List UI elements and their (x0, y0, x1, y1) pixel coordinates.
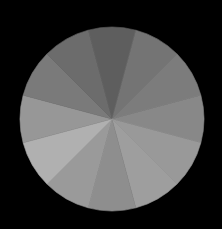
image-canvas (0, 0, 222, 229)
segmented-gray-disc (0, 0, 222, 229)
disc-wedges (20, 27, 204, 211)
